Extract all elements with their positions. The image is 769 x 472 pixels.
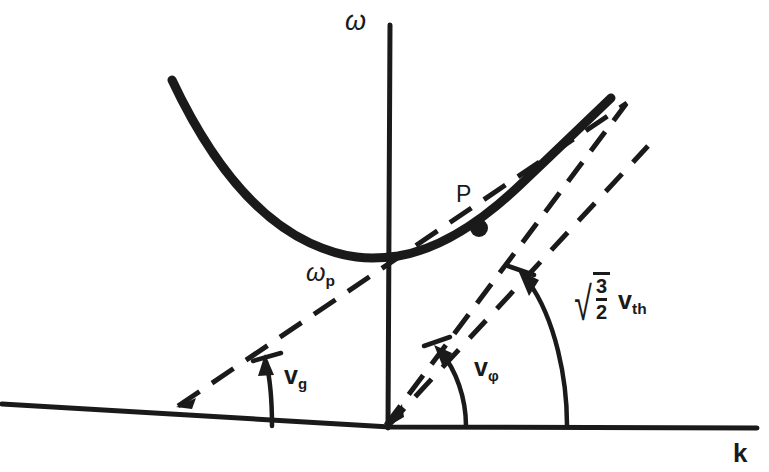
phase-velocity-chord <box>386 104 626 425</box>
radical-icon: √ <box>574 279 592 326</box>
omega-p-subscript: p <box>325 272 335 289</box>
phase-velocity-label: vφ <box>474 355 499 383</box>
point-P-label: P <box>456 183 471 206</box>
sqrt-three-halves: √32 <box>572 282 610 323</box>
vphi-subscript: φ <box>488 367 499 384</box>
vth-angle-arc <box>528 281 567 425</box>
fraction-denominator: 2 <box>596 298 607 323</box>
fraction-numerator: 3 <box>596 276 607 298</box>
omega-p-base: ω <box>306 258 325 286</box>
vth-subscript: th <box>632 300 647 317</box>
vth-base: v <box>618 286 632 314</box>
plasma-frequency-label: ωp <box>306 260 335 289</box>
k-axis-line <box>2 404 757 428</box>
dispersion-relation-figure: ω k P ωp vg vφ √32vth <box>0 0 769 472</box>
fraction-three-halves: 32 <box>593 272 610 323</box>
vphi-arc-tick <box>424 337 450 346</box>
point-P-marker <box>470 219 488 237</box>
vg-subscript: g <box>298 375 307 392</box>
group-velocity-label: vg <box>284 363 307 391</box>
omega-axis-line <box>388 25 390 428</box>
thermal-velocity-label: √32vth <box>572 282 647 323</box>
omega-axis-label: ω <box>345 8 366 35</box>
vphi-base: v <box>474 353 488 381</box>
k-axis-label: k <box>733 440 747 466</box>
vth-term: vth <box>618 286 647 314</box>
vg-base: v <box>284 361 298 389</box>
